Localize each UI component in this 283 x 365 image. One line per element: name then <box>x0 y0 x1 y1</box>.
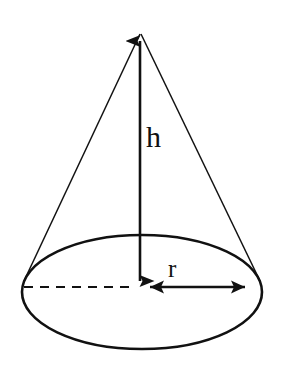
height-label: h <box>146 122 161 152</box>
cone-right-slant-line <box>141 34 260 281</box>
cone-figure <box>0 0 283 365</box>
cone-left-slant-line <box>24 34 140 281</box>
radius-label: r <box>168 256 176 281</box>
cone-base-ellipse <box>22 235 262 349</box>
cone-diagram-canvas: h r <box>0 0 283 365</box>
